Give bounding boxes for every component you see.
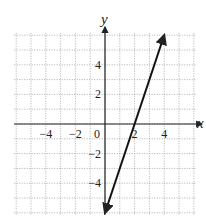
x-tick-label: −2 xyxy=(69,127,82,141)
axes xyxy=(14,27,202,215)
x-tick-label: 4 xyxy=(161,127,167,141)
x-tick-label: −4 xyxy=(39,127,52,141)
y-axis-label: y xyxy=(99,11,108,27)
y-tick-label: −4 xyxy=(88,176,101,190)
x-axis-label: x xyxy=(196,115,204,131)
y-tick-label: −2 xyxy=(88,147,101,161)
y-tick-label: 4 xyxy=(95,58,101,72)
coordinate-plane: −4−2024−4−224 x y xyxy=(0,0,206,216)
y-tick-label: 2 xyxy=(95,87,101,101)
x-tick-label: 0 xyxy=(94,127,100,141)
